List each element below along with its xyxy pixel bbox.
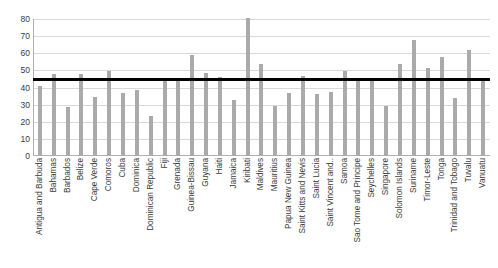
x-label-slot: Papua New Guinea: [282, 158, 296, 266]
x-axis-tick-label: Guinea-Bissau: [188, 158, 196, 212]
x-axis-tick-label: Singapore: [382, 158, 390, 195]
bar-slot: [144, 19, 158, 156]
bar[interactable]: [121, 93, 125, 156]
bar-slot: [130, 19, 144, 156]
bar-slot: [241, 19, 255, 156]
x-axis-tick-label: Antigua and Barbuda: [36, 158, 44, 235]
x-axis-category-labels: Antigua and BarbudaBahamasBarbadosBelize…: [33, 158, 490, 266]
x-label-slot: Trinidad and Tobago: [448, 158, 462, 266]
bar[interactable]: [66, 107, 70, 156]
x-axis-tick-label: Saint Vincent and..: [327, 158, 335, 227]
bar[interactable]: [273, 106, 277, 156]
x-label-slot: Antigua and Barbuda: [33, 158, 47, 266]
bar[interactable]: [412, 40, 416, 156]
x-axis-tick-label: Belize: [77, 158, 85, 180]
x-label-slot: Saint Vincent and..: [324, 158, 338, 266]
x-axis-tick-label: Grenada: [174, 158, 182, 190]
bar[interactable]: [453, 98, 457, 156]
bar[interactable]: [246, 18, 250, 156]
x-label-slot: Fiji: [158, 158, 172, 266]
x-label-slot: Saint Lucia: [310, 158, 324, 266]
x-axis-tick-label: Trinidad and Tobago: [451, 158, 459, 232]
x-label-slot: Seychelles: [365, 158, 379, 266]
y-axis-tick-label: 30: [4, 100, 30, 109]
bar[interactable]: [79, 74, 83, 156]
bar[interactable]: [163, 79, 167, 156]
x-label-slot: Dominica: [130, 158, 144, 266]
bar[interactable]: [204, 73, 208, 156]
bar[interactable]: [232, 100, 236, 156]
bar[interactable]: [481, 81, 485, 156]
x-label-slot: Tonga: [435, 158, 449, 266]
bar[interactable]: [329, 92, 333, 156]
bar[interactable]: [190, 55, 194, 156]
bar-slot: [199, 19, 213, 156]
bars-layer: [33, 19, 490, 156]
bar[interactable]: [52, 74, 56, 156]
bar[interactable]: [107, 71, 111, 156]
bar[interactable]: [384, 106, 388, 156]
bar[interactable]: [426, 68, 430, 156]
bar-slot: [75, 19, 89, 156]
x-axis-tick-label: Timor-Leste: [424, 158, 432, 201]
x-axis-tick-label: Bahamas: [50, 158, 58, 193]
x-axis-tick-label: Papua New Guinea: [285, 158, 293, 229]
x-label-slot: Suriname: [407, 158, 421, 266]
y-axis-tick-label: 0: [4, 152, 30, 161]
bar-slot: [435, 19, 449, 156]
x-axis-tick-label: Seychelles: [368, 158, 376, 198]
x-axis-tick-label: Suriname: [410, 158, 418, 193]
bar[interactable]: [135, 90, 139, 156]
bar[interactable]: [93, 97, 97, 156]
bar[interactable]: [218, 77, 222, 156]
bar[interactable]: [356, 81, 360, 156]
average-reference-line: [33, 78, 490, 81]
x-axis-tick-label: Saint Kitts and Nevis: [299, 158, 307, 234]
y-axis-tick-label: 20: [4, 118, 30, 127]
x-axis-tick-label: Haiti: [216, 158, 224, 174]
bar-slot: [324, 19, 338, 156]
bar[interactable]: [38, 86, 42, 156]
bar-slot: [102, 19, 116, 156]
bar[interactable]: [287, 93, 291, 156]
bar[interactable]: [467, 50, 471, 156]
x-label-slot: Mauritius: [268, 158, 282, 266]
bar[interactable]: [370, 81, 374, 156]
bar-slot: [296, 19, 310, 156]
bar-slot: [365, 19, 379, 156]
x-axis-tick-label: Sao Tome and Principe: [354, 158, 362, 243]
bar-slot: [338, 19, 352, 156]
x-axis-tick-label: Samoa: [340, 158, 348, 184]
bar[interactable]: [149, 116, 153, 156]
x-axis-tick-label: Mauritius: [271, 158, 279, 191]
x-label-slot: Guyana: [199, 158, 213, 266]
bar[interactable]: [301, 76, 305, 156]
x-label-slot: Timor-Leste: [421, 158, 435, 266]
x-axis-tick-label: Fiji: [160, 158, 168, 168]
x-label-slot: Kiribati: [241, 158, 255, 266]
x-axis-tick-label: Solomon Islands: [396, 158, 404, 219]
bar[interactable]: [315, 94, 319, 156]
x-label-slot: Sao Tome and Principe: [352, 158, 366, 266]
bar-slot: [255, 19, 269, 156]
x-label-slot: Belize: [75, 158, 89, 266]
bar-slot: [158, 19, 172, 156]
x-label-slot: Bahamas: [47, 158, 61, 266]
x-label-slot: Jamaica: [227, 158, 241, 266]
y-axis-tick-label: 40: [4, 83, 30, 92]
bar-slot: [185, 19, 199, 156]
x-label-slot: Vanuatu: [476, 158, 490, 266]
bar-slot: [47, 19, 61, 156]
x-axis-tick-label: Tuvalu: [465, 158, 473, 182]
bar[interactable]: [440, 57, 444, 156]
x-label-slot: Cape Verde: [88, 158, 102, 266]
bar[interactable]: [176, 79, 180, 156]
bar-slot: [448, 19, 462, 156]
x-axis-tick-label: Saint Lucia: [313, 158, 321, 199]
bar-slot: [352, 19, 366, 156]
bar-slot: [379, 19, 393, 156]
x-label-slot: Dominican Republic: [144, 158, 158, 266]
y-axis-tick-label: 80: [4, 15, 30, 24]
x-axis-tick-label: Vanuatu: [479, 158, 487, 188]
bar[interactable]: [343, 71, 347, 156]
